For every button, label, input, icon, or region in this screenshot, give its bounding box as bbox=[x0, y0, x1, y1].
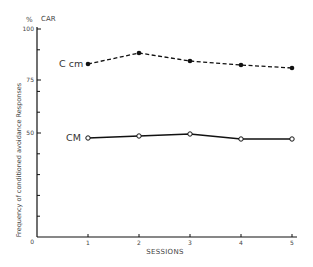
y-unit-percent: % bbox=[26, 16, 33, 24]
series-label-cm: CM bbox=[66, 132, 81, 143]
x-tick-label-1: 1 bbox=[86, 239, 90, 246]
y-tick-label-100: 100 bbox=[23, 25, 35, 32]
series-label-ccm: C cm bbox=[59, 58, 83, 69]
x-tick-label-2: 2 bbox=[137, 239, 141, 246]
x-axis-title: SESSIONS bbox=[146, 248, 184, 256]
y-tick-label-75: 75 bbox=[26, 76, 34, 83]
chart: % CAR 100 75 50 0 1 2 3 4 5 SESSIONS Fre… bbox=[0, 0, 313, 267]
y-axis-title: Frequency of conditioned avoidance Respo… bbox=[15, 82, 23, 237]
y-tick-label-50: 50 bbox=[26, 129, 34, 136]
x-tick-label-4: 4 bbox=[239, 239, 243, 246]
x-tick-label-5: 5 bbox=[290, 239, 294, 246]
series-ccm-markers bbox=[86, 51, 295, 71]
x-tick-label-3: 3 bbox=[188, 239, 192, 246]
y-unit-car: CAR bbox=[41, 15, 56, 23]
y-tick-label-0: 0 bbox=[30, 238, 34, 245]
